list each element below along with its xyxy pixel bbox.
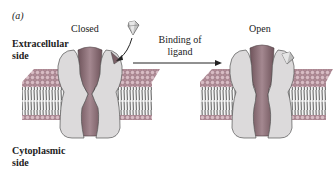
free-ligand-icon xyxy=(128,21,139,35)
transition-arrow xyxy=(133,60,222,66)
transition-label-line1: Binding of xyxy=(150,34,210,45)
closed-state-label: Closed xyxy=(71,23,99,34)
panel-label: (a) xyxy=(12,10,24,21)
open-state-label: Open xyxy=(249,23,271,34)
cytoplasmic-label-line2: side xyxy=(12,157,29,168)
extracellular-label-line2: side xyxy=(12,50,29,61)
transition-label-line2: ligand xyxy=(150,46,210,57)
channel-closed xyxy=(58,47,122,138)
cytoplasmic-label-line1: Cytoplasmic xyxy=(12,145,65,156)
channel-open xyxy=(230,45,294,138)
extracellular-label-line1: Extracellular xyxy=(12,38,69,49)
